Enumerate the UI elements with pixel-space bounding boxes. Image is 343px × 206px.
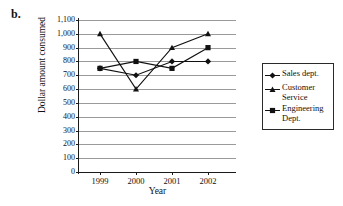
data-point-marker — [205, 45, 210, 50]
x-tick-mark — [172, 172, 173, 175]
legend-item-label: Engineering Dept. — [280, 104, 330, 123]
y-tick-label: 1,100 — [57, 16, 75, 24]
y-tick-label: 1,000 — [57, 30, 75, 38]
y-axis-title: Dollar amount consumed — [37, 5, 47, 125]
x-tick-label: 2000 — [128, 177, 145, 186]
legend: Sales dept.Customer ServiceEngineering D… — [262, 63, 334, 130]
y-tick-label: 900 — [63, 44, 75, 52]
y-tick-label: 500 — [63, 99, 75, 107]
data-point-marker — [97, 66, 102, 71]
legend-item-label: Customer Service — [280, 83, 330, 102]
legend-item[interactable]: Customer Service — [265, 83, 330, 102]
x-tick-label: 1999 — [92, 177, 109, 186]
x-tick-mark — [100, 172, 101, 175]
triangle-marker-icon — [265, 84, 280, 95]
y-tick-label: 0 — [71, 168, 75, 176]
x-tick-label: 2002 — [200, 177, 217, 186]
square-marker-icon — [265, 105, 280, 116]
gridline — [79, 172, 236, 173]
data-point-marker — [205, 58, 211, 64]
x-axis-title: Year — [79, 186, 236, 196]
y-tick-mark — [76, 172, 79, 173]
data-point-marker — [133, 59, 138, 64]
data-point-marker — [205, 31, 211, 36]
series-layer — [79, 20, 236, 172]
y-tick-label: 100 — [63, 154, 75, 162]
data-point-marker — [97, 31, 103, 36]
y-tick-label: 800 — [63, 57, 75, 65]
data-point-marker — [169, 58, 175, 64]
legend-item-label: Sales dept. — [280, 69, 319, 79]
y-tick-label: 300 — [63, 127, 75, 135]
y-tick-label: 400 — [63, 113, 75, 121]
y-tick-label: 700 — [63, 71, 75, 79]
data-point-marker — [169, 66, 174, 71]
plot-area: 01002003004005006007008009001,0001,100 1… — [79, 20, 236, 172]
x-tick-mark — [208, 172, 209, 175]
x-tick-mark — [136, 172, 137, 175]
y-tick-label: 200 — [63, 140, 75, 148]
legend-item[interactable]: Engineering Dept. — [265, 104, 330, 123]
y-tick-label: 600 — [63, 85, 75, 93]
figure-label: b. — [11, 7, 21, 22]
x-tick-label: 2001 — [164, 177, 181, 186]
data-point-marker — [133, 72, 139, 78]
diamond-marker-icon — [265, 70, 280, 81]
legend-item[interactable]: Sales dept. — [265, 69, 330, 81]
